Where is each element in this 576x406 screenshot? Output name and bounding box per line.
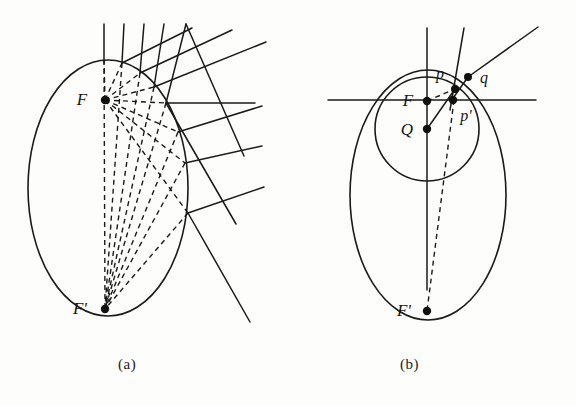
reflected-ray-7 [188, 187, 264, 213]
focus-f-dot [423, 97, 431, 105]
panel-a-focal-dashed-rays [104, 60, 188, 309]
panel-b-diagram: F Q F' p p' q [288, 0, 576, 406]
reflected-ray-8 [188, 213, 250, 322]
panel-b-construction-lines [328, 27, 538, 290]
panel-a-label-F-prime: F' [72, 299, 87, 318]
focus-f-dot [101, 96, 109, 104]
panel-b-label-F-prime: F' [396, 301, 411, 320]
reflected-ray-5 [178, 106, 262, 132]
incoming-ray-4 [154, 24, 164, 87]
point-p-prime-dot [449, 96, 457, 104]
outgoing-ray-from-q [468, 27, 538, 77]
panel-a-reflected-rays [122, 24, 266, 322]
panel-b-ellipse [350, 70, 506, 320]
panel-b-label-p: p [435, 65, 444, 83]
caption-panel-b: (b) [400, 356, 419, 373]
panel-b-label-q: q [480, 69, 488, 87]
panel-a-incoming-rays [104, 24, 186, 103]
reflected-ray-2 [140, 30, 232, 73]
point-q-dot [464, 73, 472, 81]
center-q-dot [423, 125, 431, 133]
reflected-ray-10 [186, 24, 244, 156]
panel-b-label-F: F [402, 91, 414, 110]
figure-root: F F' F Q F' p p' q [0, 0, 576, 406]
reflected-ray-1 [122, 28, 192, 63]
panel-b-label-p-prime: p' [459, 107, 472, 125]
point-p-dot [451, 85, 459, 93]
incoming-ray-2 [122, 24, 124, 63]
caption-panel-a: (a) [118, 356, 136, 373]
dashed-p-to-F-prime [427, 100, 454, 311]
focal-dash-f-3 [105, 73, 140, 100]
focus-f-prime-dot [101, 305, 109, 313]
incoming-ray-3 [140, 24, 144, 73]
panel-b-label-Q: Q [401, 120, 413, 139]
focal-dash-fp-6 [105, 132, 178, 309]
focal-dash-fp-7 [105, 163, 185, 309]
focal-dash-f-8 [105, 100, 188, 213]
focus-f-prime-dot [423, 307, 431, 315]
panel-a-label-F: F [76, 90, 88, 109]
focal-dash-fp-5 [105, 103, 166, 309]
panel-a-diagram: F F' [0, 0, 288, 406]
